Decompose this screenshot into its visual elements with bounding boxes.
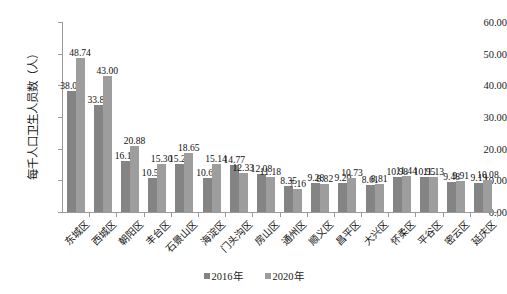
x-category-label: 西城区 (88, 216, 120, 248)
x-tick-mark (252, 213, 253, 217)
bar: 18.65 (184, 153, 193, 212)
bar: 15.30 (157, 164, 166, 212)
bar-chart-figure: 每千人口卫生人员数（人） 0.0010.0020.0030.0040.0050.… (0, 0, 507, 294)
bar-group: 10.9811.44 (388, 22, 415, 212)
x-category-label: 大兴区 (359, 216, 391, 248)
bar: 12.33 (239, 173, 248, 212)
bar-value-label: 8.81 (371, 173, 388, 184)
chart-legend: 2016年2020年 (0, 268, 507, 283)
x-tick-mark (497, 213, 498, 217)
bar: 8.82 (320, 184, 329, 212)
legend-label: 2016年 (212, 268, 243, 283)
bar: 10.08 (483, 180, 492, 212)
bar: 8.81 (375, 184, 384, 212)
x-tick-mark (116, 213, 117, 217)
x-category-label: 昌平区 (332, 216, 364, 248)
x-tick-mark (470, 213, 471, 217)
bar: 9.91 (456, 181, 465, 212)
y-axis-title: 每千人口卫生人员数（人） (24, 14, 40, 214)
legend-swatch-icon (204, 273, 210, 279)
bar: 10.95 (420, 177, 429, 212)
x-category-label: 密云区 (441, 216, 473, 248)
bar-value-label: 9.91 (452, 170, 469, 181)
bar: 10.64 (203, 178, 212, 212)
x-tick-mark (89, 213, 90, 217)
x-category-label: 延庆区 (468, 216, 500, 248)
x-category-label: 朝阳区 (115, 216, 147, 248)
x-category-label: 平谷区 (414, 216, 446, 248)
bar: 8.61 (366, 185, 375, 212)
bar-group: 16.1420.88 (116, 22, 143, 212)
x-tick-mark (171, 213, 172, 217)
bar: 12.08 (257, 174, 266, 212)
bar-group: 33.8143.00 (89, 22, 116, 212)
legend-swatch-icon (265, 273, 271, 279)
bar-value-label: 11.13 (423, 166, 444, 177)
bar: 16.14 (121, 161, 130, 212)
bar-group: 10.5915.30 (144, 22, 171, 212)
bar: 48.74 (76, 58, 85, 212)
bar-group: 8.357.16 (280, 22, 307, 212)
bar: 15.14 (212, 164, 221, 212)
x-category-label: 房山区 (251, 216, 283, 248)
x-tick-mark (144, 213, 145, 217)
bar-group: 9.2010.73 (334, 22, 361, 212)
bar: 9.20 (338, 183, 347, 212)
bar-value-label: 11.18 (260, 166, 281, 177)
bar-value-label: 10.08 (477, 169, 499, 180)
x-category-label: 顺义区 (305, 216, 337, 248)
bar: 38.08 (67, 91, 76, 212)
bar-group: 10.9511.13 (415, 22, 442, 212)
x-tick-mark (388, 213, 389, 217)
bar-group: 15.2118.65 (171, 22, 198, 212)
x-tick-mark (415, 213, 416, 217)
bar-value-label: 48.74 (69, 47, 91, 58)
bar-value-label: 8.82 (316, 173, 333, 184)
bar: 11.18 (266, 177, 275, 212)
bar: 10.73 (347, 178, 356, 212)
bar: 43.00 (103, 76, 112, 212)
bar: 7.16 (293, 189, 302, 212)
bar: 33.81 (94, 105, 103, 212)
bar-group: 8.618.81 (361, 22, 388, 212)
x-tick-mark (361, 213, 362, 217)
bar: 10.59 (148, 178, 157, 212)
legend-label: 2020年 (273, 268, 304, 283)
bar-group: 14.7712.33 (225, 22, 252, 212)
bar: 15.21 (175, 164, 184, 212)
x-category-label: 通州区 (278, 216, 310, 248)
bar-group: 9.288.82 (307, 22, 334, 212)
bar: 11.13 (429, 177, 438, 212)
bar: 20.88 (130, 146, 139, 212)
x-tick-mark (280, 213, 281, 217)
bar: 9.19 (474, 183, 483, 212)
x-category-label: 怀柔区 (387, 216, 419, 248)
plot-area: 38.0848.7433.8143.0016.1420.8810.5915.30… (62, 22, 497, 212)
legend-entry[interactable]: 2016年 (204, 268, 243, 283)
x-tick-mark (225, 213, 226, 217)
x-tick-mark (198, 213, 199, 217)
x-category-label: 东城区 (60, 216, 92, 248)
x-tick-mark (307, 213, 308, 217)
bar: 9.48 (447, 182, 456, 212)
bar: 11.44 (402, 176, 411, 212)
x-tick-mark (334, 213, 335, 217)
bar-group: 38.0848.74 (62, 22, 89, 212)
bar-group: 9.489.91 (443, 22, 470, 212)
bar-value-label: 43.00 (96, 65, 118, 76)
x-tick-mark (443, 213, 444, 217)
bar-group: 10.6415.14 (198, 22, 225, 212)
bar-group: 12.0811.18 (252, 22, 279, 212)
bar-value-label: 18.65 (178, 142, 200, 153)
bar: 8.35 (284, 186, 293, 212)
bar: 9.28 (311, 183, 320, 212)
bar: 10.98 (393, 177, 402, 212)
bar-value-label: 10.73 (341, 167, 363, 178)
bar-value-label: 20.88 (124, 135, 146, 146)
legend-entry[interactable]: 2020年 (265, 268, 304, 283)
bar-group: 9.1910.08 (470, 22, 497, 212)
bar-value-label: 7.16 (289, 178, 306, 189)
